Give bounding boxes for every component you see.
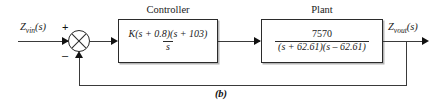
controller-input-arrowhead-icon (111, 37, 118, 45)
minus-sign-label: – (62, 50, 68, 61)
controller-denominator: s (163, 41, 173, 53)
feedback-tap-line (406, 41, 407, 85)
output-signal-argument: (s) (407, 21, 418, 32)
input-signal-line (18, 41, 68, 42)
feedback-return-line (79, 85, 407, 86)
feedback-arrowhead-icon (75, 51, 83, 58)
plant-block-title: Plant (261, 4, 383, 15)
plant-transfer-function: 7570 (s + 62.61)(s – 62.61) (275, 29, 369, 53)
output-signal-line (383, 41, 427, 42)
controller-transfer-function: K(s + 0.8)(s + 103) s (126, 29, 211, 53)
controller-block-title: Controller (118, 4, 218, 15)
output-signal-subscript: vout (394, 26, 407, 35)
input-signal-label: Zvin(s) (20, 21, 46, 35)
controller-numerator: K(s + 0.8)(s + 103) (126, 29, 211, 40)
controller-block: K(s + 0.8)(s + 103) s (118, 19, 218, 63)
plant-block: 7570 (s + 62.61)(s – 62.61) (261, 19, 383, 63)
feedback-riser-line (79, 57, 80, 85)
output-signal-label: Zvout(s) (388, 21, 418, 35)
block-diagram-figure: Zvin(s) + – Controller K(s + 0.8)(s + 10… (0, 0, 442, 105)
plus-sign-label: + (62, 22, 68, 33)
plant-denominator: (s + 62.61)(s – 62.61) (275, 41, 369, 53)
output-arrowhead-icon (422, 37, 429, 45)
plant-input-arrowhead-icon (254, 37, 261, 45)
plant-numerator: 7570 (309, 29, 335, 40)
summing-junction (68, 30, 90, 52)
input-signal-subscript: vin (26, 26, 35, 35)
figure-caption: (b) (0, 88, 442, 99)
input-signal-argument: (s) (35, 21, 46, 32)
